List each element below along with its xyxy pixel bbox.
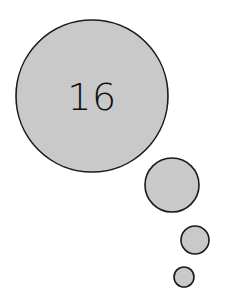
circle-group-large[interactable]: 16 xyxy=(16,20,168,172)
circle-tiny[interactable] xyxy=(174,267,194,287)
circle-small[interactable] xyxy=(181,226,209,254)
circle-medium[interactable] xyxy=(145,158,199,212)
diagram-canvas: 16 xyxy=(0,0,225,308)
circle-large-label: 16 xyxy=(67,75,116,119)
circle-diagram: 16 xyxy=(0,0,225,308)
circle-group-small[interactable] xyxy=(181,226,209,254)
circle-group-medium[interactable] xyxy=(145,158,199,212)
circle-group-tiny[interactable] xyxy=(174,267,194,287)
